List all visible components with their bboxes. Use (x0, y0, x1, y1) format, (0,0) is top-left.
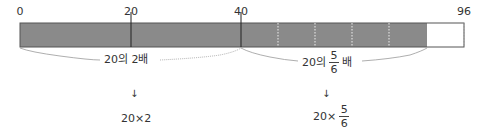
right-label-suffix: 배 (342, 57, 352, 69)
left-expression: 20×2 (121, 113, 151, 125)
number-bar-diagram (0, 0, 482, 136)
tick-label-40: 40 (234, 6, 248, 17)
expr-fraction-5-6: 5 6 (339, 104, 349, 129)
left-arrow-icon: ↓ (130, 88, 138, 100)
right-brace (241, 48, 298, 61)
tick-label-20: 20 (124, 6, 138, 17)
right-expression: 20× 5 6 (313, 104, 352, 129)
fraction-5-6: 5 6 (329, 50, 339, 75)
left-brace-label: 20의 2배 (104, 54, 149, 66)
right-arrow-icon: ↓ (322, 88, 330, 100)
tick-label-0: 0 (17, 6, 24, 17)
right-label-prefix: 20의 (302, 57, 326, 69)
tick-label-96: 96 (457, 6, 471, 17)
filled-bar-region (20, 23, 427, 47)
right-brace-label: 20의 5 6 배 (302, 50, 352, 75)
left-brace (20, 48, 100, 60)
